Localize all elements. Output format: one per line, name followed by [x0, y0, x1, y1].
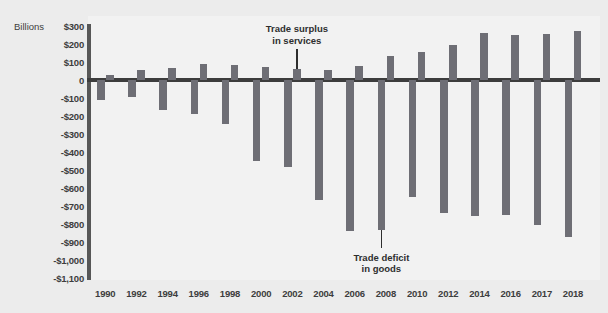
x-axis-tick-label-2002: 2002	[282, 288, 302, 299]
bar-goods-deficit-2002	[284, 80, 292, 167]
bar-goods-deficit-1996	[191, 80, 199, 114]
trade-balance-chart: Billions $300$200$1000-$100-$200-$300-$4…	[0, 0, 608, 313]
annotation-trade-surplus-in-services: Trade surplusin services	[266, 23, 328, 46]
bar-goods-deficit-2004	[315, 80, 323, 200]
bar-services-surplus-2006	[355, 66, 363, 80]
bar-goods-deficit-2018	[565, 80, 573, 237]
x-axis-tick-label-2000: 2000	[251, 288, 271, 299]
bar-goods-deficit-2014	[471, 80, 479, 216]
bar-services-surplus-2017	[543, 34, 551, 80]
bar-goods-deficit-2016	[502, 80, 510, 215]
annotation-leader-line-trade-surplus-in-services	[296, 49, 298, 69]
x-axis-tick-label-2012: 2012	[438, 288, 458, 299]
annotation-line-2: in goods	[353, 263, 409, 275]
bar-services-surplus-1996	[200, 64, 208, 80]
bar-goods-deficit-2000	[253, 80, 261, 161]
x-axis-tick-label-1998: 1998	[220, 288, 240, 299]
bar-goods-deficit-1994	[159, 80, 167, 110]
bar-goods-deficit-1998	[222, 80, 230, 124]
annotation-trade-deficit-in-goods: Trade deficitin goods	[353, 252, 409, 275]
bar-goods-deficit-2017	[534, 80, 542, 225]
bar-services-surplus-1992	[137, 70, 145, 80]
bar-services-surplus-2002	[293, 69, 301, 80]
x-axis-tick-label-2016: 2016	[500, 288, 520, 299]
bar-services-surplus-1998	[231, 65, 239, 80]
x-axis-tick-label-2004: 2004	[313, 288, 333, 299]
bar-goods-deficit-1990	[97, 80, 105, 100]
x-axis-tick-label-1992: 1992	[126, 288, 146, 299]
annotation-line-1: Trade deficit	[353, 252, 409, 264]
annotation-line-1: Trade surplus	[266, 23, 328, 35]
x-axis-tick-label-1990: 1990	[95, 288, 115, 299]
bar-services-surplus-2018	[574, 31, 582, 80]
bar-goods-deficit-2010	[409, 80, 417, 197]
x-axis-tick-label-1996: 1996	[189, 288, 209, 299]
x-axis-tick-label-2017: 2017	[532, 288, 552, 299]
bar-services-surplus-2004	[324, 70, 332, 80]
x-axis-tick-label-2008: 2008	[376, 288, 396, 299]
x-axis-tick-label-2014: 2014	[469, 288, 489, 299]
bar-services-surplus-2000	[262, 67, 270, 80]
bars-layer	[0, 0, 608, 313]
bar-goods-deficit-2012	[440, 80, 448, 213]
bar-services-surplus-2016	[511, 35, 519, 80]
annotation-leader-line-trade-deficit-in-goods	[381, 230, 383, 248]
bar-services-surplus-2014	[480, 33, 488, 80]
bar-services-surplus-2008	[387, 56, 395, 80]
x-axis-tick-label-2010: 2010	[407, 288, 427, 299]
x-axis-tick-label-1994: 1994	[157, 288, 177, 299]
annotation-line-2: in services	[266, 35, 328, 47]
bar-services-surplus-2010	[418, 52, 426, 80]
bar-goods-deficit-2008	[378, 80, 386, 230]
bar-goods-deficit-1992	[128, 80, 136, 97]
bar-goods-deficit-2006	[346, 80, 354, 231]
bar-services-surplus-1994	[168, 68, 176, 80]
bar-services-surplus-1990	[106, 75, 114, 80]
bar-services-surplus-2012	[449, 45, 457, 80]
x-axis-tick-label-2018: 2018	[563, 288, 583, 299]
x-axis-tick-label-2006: 2006	[345, 288, 365, 299]
